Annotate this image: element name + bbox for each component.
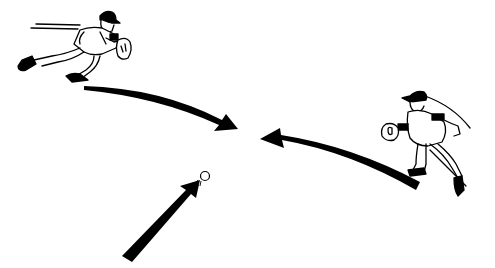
left-fielder-figure [18,12,131,83]
left-arrow-icon [84,86,238,131]
right-fielder-figure [382,92,471,197]
illustration-svg [0,0,495,268]
illustration-canvas [0,0,495,268]
ball-arrow-icon [122,180,200,262]
